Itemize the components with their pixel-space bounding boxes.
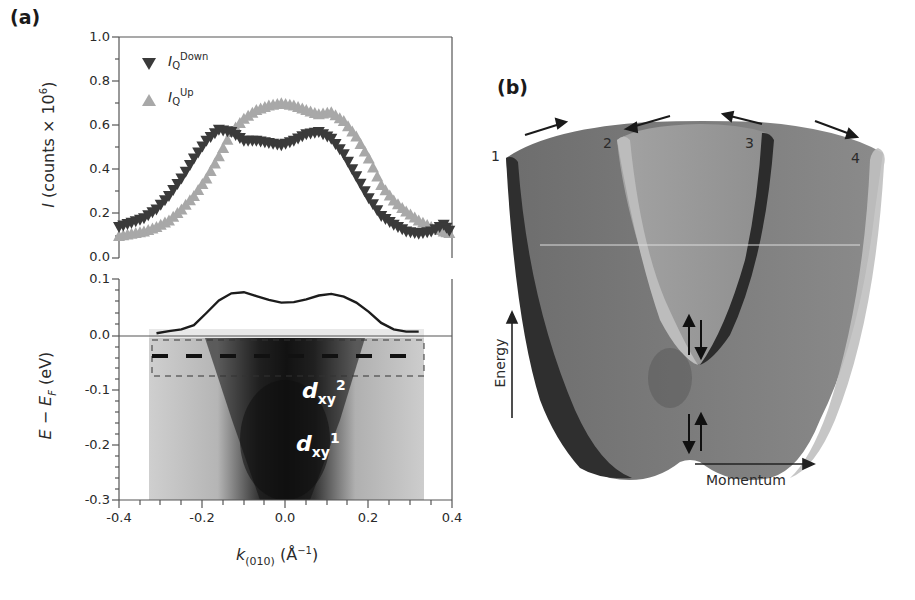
energy-label: Energy (492, 333, 508, 393)
band-number-3: 3 (745, 135, 754, 151)
energy-arrow-icon (507, 312, 517, 418)
band-number-4: 4 (851, 150, 860, 166)
mdc-curve (157, 292, 419, 333)
panel-a-graphics (0, 0, 915, 600)
band-number-2: 2 (603, 135, 612, 151)
momentum-label: Momentum (706, 472, 786, 488)
band-number-1: 1 (491, 148, 500, 164)
band-schematic (506, 112, 885, 480)
panel-b-label: (b) (497, 76, 528, 98)
band-label-dxy2: dxy2 (302, 377, 346, 407)
series-up (113, 97, 455, 241)
bottom-plot-frame (112, 279, 452, 508)
band-label-dxy1: dxy1 (296, 430, 340, 460)
